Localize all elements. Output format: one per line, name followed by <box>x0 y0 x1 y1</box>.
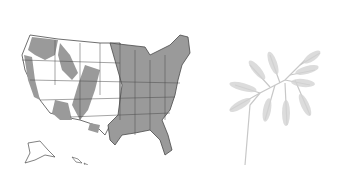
us-range-map <box>10 25 200 165</box>
fern-illustration <box>215 25 335 170</box>
